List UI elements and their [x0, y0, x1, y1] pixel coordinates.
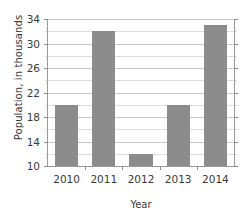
bar-2013 — [167, 105, 190, 166]
x-axis-tick — [197, 166, 198, 170]
bars-layer — [48, 19, 234, 166]
axis-tick-major — [234, 142, 238, 143]
bar-2012 — [129, 154, 152, 166]
y-tick-label: 14 — [27, 136, 40, 148]
bar-2014 — [204, 25, 227, 166]
x-axis-title: Year — [47, 199, 235, 210]
axis-tick-minor — [234, 105, 236, 106]
y-tick-label: 10 — [27, 160, 40, 172]
y-tick-label: 18 — [27, 111, 40, 123]
x-axis-tick — [85, 166, 86, 170]
x-tick-label: 2012 — [128, 173, 155, 185]
y-tick-label: 22 — [27, 87, 40, 99]
axis-tick-major — [234, 19, 238, 20]
bar-2011 — [92, 31, 115, 166]
axis-tick-major — [234, 93, 238, 94]
y-tick-label: 26 — [27, 62, 40, 74]
x-tick-label: 2010 — [53, 173, 80, 185]
x-tick-label: 2011 — [90, 173, 117, 185]
plot-area: 10141822263034 20102011201220132014 — [47, 19, 235, 167]
axis-tick-minor — [234, 154, 236, 155]
axis-tick-major — [234, 68, 238, 69]
x-axis-tick — [160, 166, 161, 170]
y-tick-label: 30 — [27, 38, 40, 50]
axis-tick-minor — [234, 80, 236, 81]
x-axis-tick — [122, 166, 123, 170]
axis-tick-major — [44, 166, 48, 167]
axis-tick-major — [234, 166, 238, 167]
x-tick-label: 2014 — [202, 173, 229, 185]
axis-tick-minor — [234, 129, 236, 130]
x-tick-label: 2013 — [165, 173, 192, 185]
axis-tick-major — [234, 117, 238, 118]
axis-tick-minor — [234, 56, 236, 57]
y-tick-label: 34 — [27, 13, 40, 25]
bar-2010 — [55, 105, 78, 166]
axis-tick-minor — [234, 31, 236, 32]
y-axis-title: Population, in thousands — [13, 0, 24, 158]
bar-chart-figure: Population, in thousands 10141822263034 … — [0, 0, 251, 223]
axis-tick-major — [234, 44, 238, 45]
